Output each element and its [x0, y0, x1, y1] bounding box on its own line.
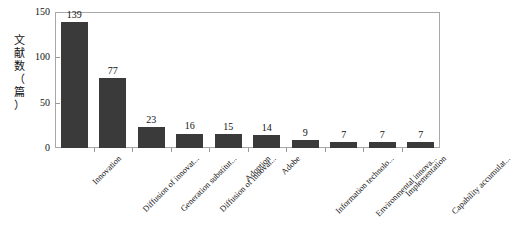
bar-value-label: 9 — [285, 128, 325, 138]
bar-value-label: 15 — [208, 122, 248, 132]
x-tick-mark — [402, 148, 403, 152]
x-tick-mark — [171, 148, 172, 152]
bar-value-label: 23 — [131, 115, 171, 125]
bar-value-label: 7 — [324, 130, 364, 140]
x-tick-mark — [286, 148, 287, 152]
x-tick-mark — [325, 148, 326, 152]
y-tick-mark — [55, 103, 60, 104]
x-category-label: Capability accumulat... — [450, 154, 512, 216]
x-tick-mark — [363, 148, 364, 152]
x-tick-mark — [132, 148, 133, 152]
y-tick-mark — [55, 57, 60, 58]
bar-value-label: 139 — [54, 10, 94, 20]
x-tick-mark — [209, 148, 210, 152]
x-category-label: Adobe — [279, 154, 301, 176]
x-tick-mark — [94, 148, 95, 152]
x-category-label: Innovation — [91, 154, 123, 186]
bar-value-label: 7 — [401, 130, 441, 140]
bar-value-label: 7 — [362, 130, 402, 140]
x-tick-mark — [248, 148, 249, 152]
bar-value-label: 77 — [93, 66, 133, 76]
bar-value-label: 14 — [247, 123, 287, 133]
bar-value-label: 16 — [170, 121, 210, 131]
